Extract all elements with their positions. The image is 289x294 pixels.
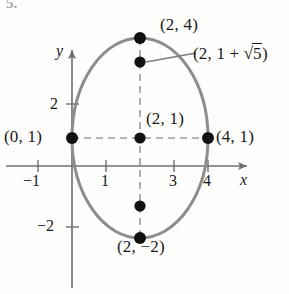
radicand: 5 bbox=[252, 43, 262, 63]
point-upper-focus bbox=[134, 56, 145, 67]
point-lower-focus bbox=[134, 200, 145, 211]
x-tick-label-neg1: −1 bbox=[23, 173, 40, 189]
x-tick-label-1: 1 bbox=[101, 173, 109, 189]
label-upper-focus-suffix: ) bbox=[262, 44, 268, 63]
y-tick-label-neg2: −2 bbox=[37, 218, 54, 234]
sqrt-icon: √5 bbox=[244, 45, 262, 62]
label-top-vertex: (2, 4) bbox=[160, 16, 198, 33]
point-center bbox=[134, 132, 145, 143]
y-tick-label-2: 2 bbox=[50, 96, 58, 112]
focus-leader-line bbox=[146, 53, 196, 62]
point-top-vertex bbox=[134, 32, 146, 44]
label-bottom-vertex: (2, −2) bbox=[117, 238, 165, 255]
x-axis-label: x bbox=[240, 172, 247, 188]
ellipse-figure: 5. bbox=[0, 0, 289, 294]
label-upper-focus: (2, 1 + √5) bbox=[193, 45, 268, 62]
label-right-vertex: (4, 1) bbox=[216, 128, 254, 145]
x-tick-label-4: 4 bbox=[203, 173, 211, 189]
x-axis bbox=[6, 162, 247, 170]
label-left-vertex: (0, 1) bbox=[4, 128, 42, 145]
label-upper-focus-prefix: (2, 1 + bbox=[193, 44, 244, 63]
label-center: (2, 1) bbox=[146, 110, 184, 127]
point-right-vertex bbox=[202, 132, 214, 144]
y-axis-label: y bbox=[56, 43, 63, 59]
x-tick-label-3: 3 bbox=[169, 173, 177, 189]
point-left-vertex bbox=[66, 132, 78, 144]
